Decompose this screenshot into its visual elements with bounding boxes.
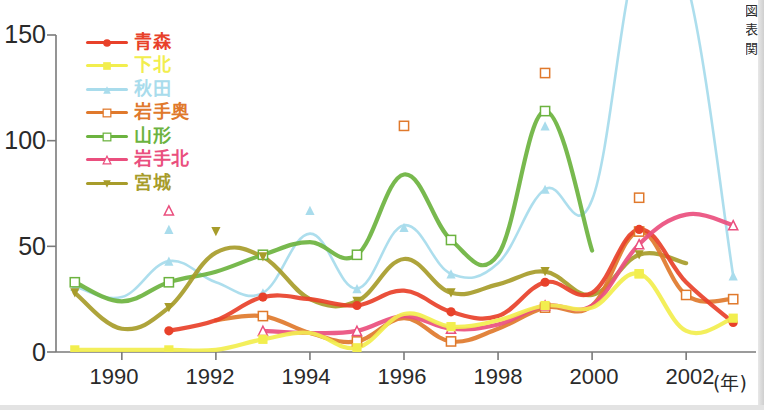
x-tick-label-2000: 2000 — [544, 364, 644, 390]
scatter-marker-岩手北-1991 — [164, 206, 173, 215]
open-triangle-icon — [102, 155, 112, 165]
legend-item-山形[interactable]: 山形 — [86, 124, 190, 148]
data-point-秋田-2003 — [729, 271, 738, 280]
legend-item-秋田[interactable]: 秋田 — [86, 77, 190, 101]
filled-triangle-icon — [102, 85, 112, 95]
data-point-青森-1999 — [540, 278, 549, 287]
x-axis-unit-label: (年) — [713, 368, 747, 395]
y-tick-label-100: 100 — [0, 126, 46, 155]
data-point-下北-1991 — [164, 345, 173, 354]
data-point-青森-1993 — [258, 292, 267, 301]
legend-swatch-岩手奥 — [86, 105, 128, 119]
filled-down-triangle-icon — [102, 179, 112, 189]
x-tick-label-1994: 1994 — [256, 364, 356, 390]
chart-legend: 青森下北秋田岩手奥山形岩手北宮城 — [86, 30, 190, 195]
open-square-icon — [102, 108, 112, 118]
filled-circle-glyph — [103, 39, 111, 47]
legend-item-岩手北[interactable]: 岩手北 — [86, 148, 190, 172]
data-point-下北-1997 — [446, 322, 455, 331]
page-right-edge — [758, 0, 764, 410]
legend-swatch-下北 — [86, 58, 128, 72]
filled-down-triangle-glyph — [103, 180, 111, 188]
open-square-glyph — [103, 109, 111, 117]
scatter-marker-岩手奥-1999 — [540, 68, 549, 77]
filled-square-icon — [102, 61, 112, 71]
legend-swatch-岩手北 — [86, 152, 128, 166]
legend-label-秋田: 秋田 — [134, 80, 171, 98]
legend-label-宮城: 宮城 — [134, 174, 171, 192]
x-tick-label-1990: 1990 — [64, 364, 164, 390]
data-point-青森-1995 — [352, 301, 361, 310]
data-point-青森-2001 — [635, 225, 644, 234]
legend-label-青森: 青森 — [134, 33, 171, 51]
data-point-山形-1991 — [164, 278, 173, 287]
scatter-marker-秋田-1999 — [540, 121, 549, 130]
data-point-下北-1993 — [258, 335, 267, 344]
y-tick-label-50: 50 — [0, 232, 46, 261]
x-tick-label-1992: 1992 — [160, 364, 260, 390]
data-point-青森-1991 — [164, 326, 173, 335]
data-point-山形-1997 — [446, 235, 455, 244]
data-point-青森-1997 — [446, 307, 455, 316]
legend-label-下北: 下北 — [134, 56, 171, 74]
page-bottom-edge — [0, 405, 764, 410]
legend-swatch-宮城 — [86, 176, 128, 190]
legend-swatch-青森 — [86, 35, 128, 49]
scatter-marker-秋田-1994 — [305, 206, 314, 215]
open-triangle-glyph — [103, 156, 111, 164]
data-point-岩手奥-1997 — [446, 337, 455, 346]
y-tick-label-150: 150 — [0, 20, 46, 49]
legend-swatch-秋田 — [86, 82, 128, 96]
filled-triangle-glyph — [103, 86, 111, 94]
chart-screenshot: 150 100 50 0 1990 1992 1994 1996 1998 20… — [0, 0, 764, 410]
filled-square-glyph — [103, 62, 111, 70]
data-point-山形-1989 — [70, 278, 79, 287]
data-point-岩手奥-1993 — [258, 311, 267, 320]
scatter-marker-宮城-1992 — [211, 227, 220, 236]
scatter-marker-秋田-1991 — [164, 225, 173, 234]
data-point-下北-1999 — [540, 301, 549, 310]
legend-item-下北[interactable]: 下北 — [86, 54, 190, 78]
data-point-岩手奥-2003 — [729, 295, 738, 304]
open-square-icon — [102, 132, 112, 142]
legend-swatch-山形 — [86, 129, 128, 143]
legend-label-岩手北: 岩手北 — [134, 150, 190, 168]
scatter-marker-岩手奥-1996 — [399, 121, 408, 130]
scatter-marker-岩手奥-2002 — [682, 290, 691, 299]
legend-item-岩手奥[interactable]: 岩手奥 — [86, 101, 190, 125]
x-tick-label-1996: 1996 — [352, 364, 452, 390]
open-square-glyph — [103, 133, 111, 141]
legend-label-山形: 山形 — [134, 127, 171, 145]
legend-item-青森[interactable]: 青森 — [86, 30, 190, 54]
scatter-marker-岩手奥-2001 — [635, 193, 644, 202]
filled-circle-icon — [102, 38, 112, 48]
legend-label-岩手奥: 岩手奥 — [134, 103, 190, 121]
legend-item-宮城[interactable]: 宮城 — [86, 171, 190, 195]
data-point-下北-1989 — [70, 345, 79, 354]
data-point-下北-1995 — [352, 343, 361, 352]
scatter-marker-下北-2001 — [635, 269, 644, 278]
data-point-山形-1999 — [540, 106, 549, 115]
data-point-下北-2003 — [729, 314, 738, 323]
y-tick-label-0: 0 — [0, 338, 46, 367]
data-point-山形-1995 — [352, 250, 361, 259]
x-tick-label-1998: 1998 — [448, 364, 548, 390]
